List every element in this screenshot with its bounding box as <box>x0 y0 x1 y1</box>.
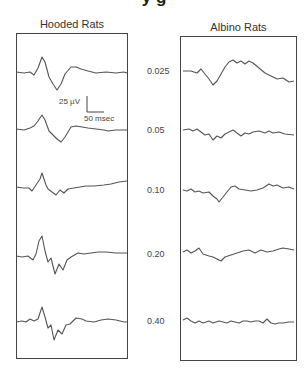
trace-hooded-0.025 <box>16 57 127 90</box>
condition-label-4: 0.40 <box>147 316 187 326</box>
condition-label-3: 0.20 <box>147 249 187 259</box>
trace-albino-0.20 <box>183 248 294 261</box>
scale-bar-lines <box>87 96 104 112</box>
condition-label-2: 0.10 <box>147 185 187 195</box>
trace-hooded-0.40 <box>16 307 127 340</box>
trace-albino-0.05 <box>183 129 294 140</box>
trace-albino-0.025 <box>183 60 294 85</box>
panel-frame-albino <box>181 37 297 361</box>
scale-bar: 25 µV 50 msec <box>59 96 114 123</box>
trace-hooded-0.20 <box>16 236 127 274</box>
condition-label-1: 0.05 <box>147 125 187 135</box>
trace-hooded-0.10 <box>16 173 127 195</box>
trace-albino-0.40 <box>183 318 294 324</box>
panel-frame-hooded <box>17 34 128 359</box>
trace-albino-0.10 <box>183 184 294 202</box>
scale-voltage-label: 25 µV <box>59 97 81 106</box>
traces-group <box>16 57 294 340</box>
scale-time-label: 50 msec <box>84 114 114 123</box>
condition-label-0: 0.025 <box>147 66 187 76</box>
